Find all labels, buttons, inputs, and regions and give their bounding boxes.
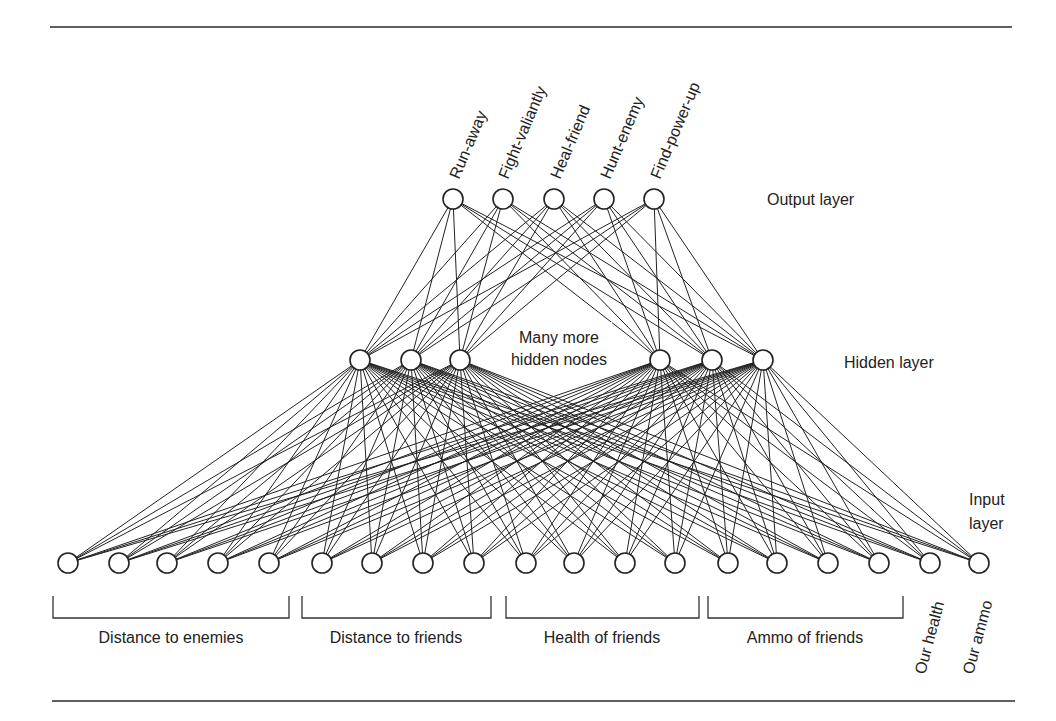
hidden-node — [450, 350, 470, 370]
network-diagram: Run-away Fight-valiantly Heal-friend Hun… — [0, 0, 1056, 721]
output-node — [644, 189, 664, 209]
hidden-node — [350, 350, 370, 370]
input-node — [818, 553, 838, 573]
input-node — [464, 553, 484, 573]
input-node — [362, 553, 382, 573]
bracket-health-of-friends — [506, 596, 699, 618]
output-label-heal-friend: Heal-friend — [547, 102, 593, 181]
hidden-annotation-line2: hidden nodes — [511, 351, 607, 368]
input-node — [767, 553, 787, 573]
input-node — [312, 553, 332, 573]
edge-hidden-input — [763, 360, 879, 563]
output-node — [544, 189, 564, 209]
edge-output-hidden — [654, 199, 763, 360]
hidden-node — [401, 350, 421, 370]
input-node — [58, 553, 78, 573]
group-label-health-of-friends: Health of friends — [544, 629, 661, 646]
bracket-distance-to-friends — [302, 596, 491, 618]
group-label-distance-to-friends: Distance to friends — [330, 629, 463, 646]
output-label-fight-valiantly: Fight-valiantly — [495, 84, 549, 181]
edge-output-hidden — [604, 199, 712, 360]
hidden-node — [702, 350, 722, 370]
edge-hidden-input — [660, 360, 979, 563]
output-layer-label: Output layer — [767, 191, 855, 208]
edge-hidden-input — [119, 360, 763, 563]
edge-hidden-input — [68, 360, 660, 563]
edge-hidden-input — [460, 360, 930, 563]
hidden-node — [650, 350, 670, 370]
input-node — [920, 553, 940, 573]
hidden-annotation-line1: Many more — [519, 329, 599, 346]
edge-hidden-input — [218, 360, 411, 563]
input-node — [869, 553, 889, 573]
group-label-ammo-of-friends: Ammo of friends — [747, 629, 863, 646]
input-label-our-ammo: Our ammo — [959, 598, 995, 675]
input-node — [208, 553, 228, 573]
connections — [68, 199, 979, 563]
hidden-node — [753, 350, 773, 370]
input-layer-label-line2: layer — [969, 515, 1004, 532]
output-labels: Run-away Fight-valiantly Heal-friend Hun… — [446, 79, 703, 181]
input-node — [718, 553, 738, 573]
input-group-brackets — [53, 596, 903, 618]
output-label-run-away: Run-away — [446, 108, 490, 181]
bracket-distance-to-enemies — [53, 596, 289, 618]
input-node — [516, 553, 536, 573]
output-node — [493, 189, 513, 209]
edge-output-hidden — [604, 199, 660, 360]
input-node — [413, 553, 433, 573]
edge-output-hidden — [654, 199, 712, 360]
input-label-our-health: Our health — [911, 599, 947, 676]
output-label-hunt-enemy: Hunt-enemy — [597, 94, 647, 181]
edge-hidden-input — [119, 360, 460, 563]
input-node — [157, 553, 177, 573]
input-layer-label-line1: Input — [969, 491, 1005, 508]
input-node — [665, 553, 685, 573]
input-node — [969, 553, 989, 573]
input-node — [564, 553, 584, 573]
output-node — [443, 189, 463, 209]
output-node — [594, 189, 614, 209]
edge-hidden-input — [68, 360, 460, 563]
group-label-distance-to-enemies: Distance to enemies — [99, 629, 244, 646]
hidden-layer-label: Hidden layer — [844, 354, 935, 371]
bracket-ammo-of-friends — [708, 596, 903, 618]
output-label-find-power-up: Find-power-up — [647, 79, 703, 181]
input-node — [109, 553, 129, 573]
input-node — [259, 553, 279, 573]
edge-output-hidden — [360, 199, 453, 360]
input-node — [615, 553, 635, 573]
